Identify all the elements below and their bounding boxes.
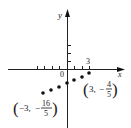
y-axis-arrow-icon: [65, 9, 70, 17]
point-x-2: [80, 75, 84, 79]
annotation-left-num: 16: [42, 99, 50, 108]
x-tick-label-3: 3: [86, 57, 90, 66]
annotation-left-den: 5: [44, 109, 48, 118]
point-x-neg2: [49, 88, 53, 92]
point-x-neg1: [57, 85, 61, 89]
point-x-0: [65, 81, 69, 85]
point-x-1: [72, 78, 76, 82]
annotation-right-num: 4: [107, 80, 111, 89]
chart-canvas: y x 0 3 ( −3, − 16 5 ) ( 3, − 4 5 ): [0, 0, 131, 128]
annotation-left-minus: −: [35, 103, 40, 113]
x-axis-label: x: [117, 70, 122, 79]
annotation-right-minus: −: [99, 84, 104, 94]
point-x-3: [87, 71, 91, 75]
annotation-right-x: 3,: [89, 84, 96, 94]
y-ticks: [68, 46, 72, 62]
origin-label: 0: [60, 70, 64, 79]
annotation-left: ( −3, − 16 5 ): [13, 99, 58, 118]
y-axis-label: y: [57, 10, 62, 20]
point-x-neg3: [41, 91, 45, 95]
paren-close: ): [52, 99, 58, 118]
x-ticks: [38, 66, 90, 70]
annotation-right: ( 3, − 4 5 ): [83, 80, 118, 99]
paren-close: ): [112, 80, 118, 99]
annotation-right-den: 5: [107, 90, 111, 99]
annotation-left-x: −3,: [19, 103, 31, 113]
